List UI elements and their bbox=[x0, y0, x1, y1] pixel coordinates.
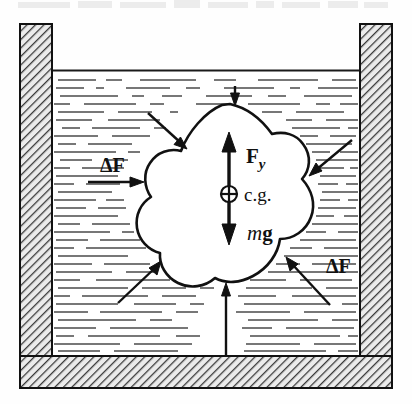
pressure-right-label: ΔF bbox=[326, 255, 351, 277]
center-of-gravity-marker bbox=[221, 186, 237, 202]
figure-canvas: Fy c.g. mg ΔF ΔF bbox=[0, 0, 412, 404]
buoyant-force-subscript: y bbox=[257, 156, 266, 172]
center-of-gravity-label: c.g. bbox=[244, 184, 271, 205]
buoyancy-figure: Fy c.g. mg ΔF ΔF bbox=[0, 0, 412, 404]
buoyant-force-symbol: F bbox=[246, 144, 259, 168]
container-right-wall bbox=[360, 24, 392, 356]
weight-gravity-symbol: g bbox=[262, 221, 273, 245]
scan-bleed-artifact bbox=[18, 0, 388, 8]
pressure-left-label: ΔF bbox=[100, 154, 125, 176]
container-left-wall bbox=[20, 24, 52, 356]
container-floor bbox=[20, 356, 392, 388]
weight-mass-symbol: m bbox=[247, 221, 262, 245]
weight-label: mg bbox=[247, 221, 273, 245]
